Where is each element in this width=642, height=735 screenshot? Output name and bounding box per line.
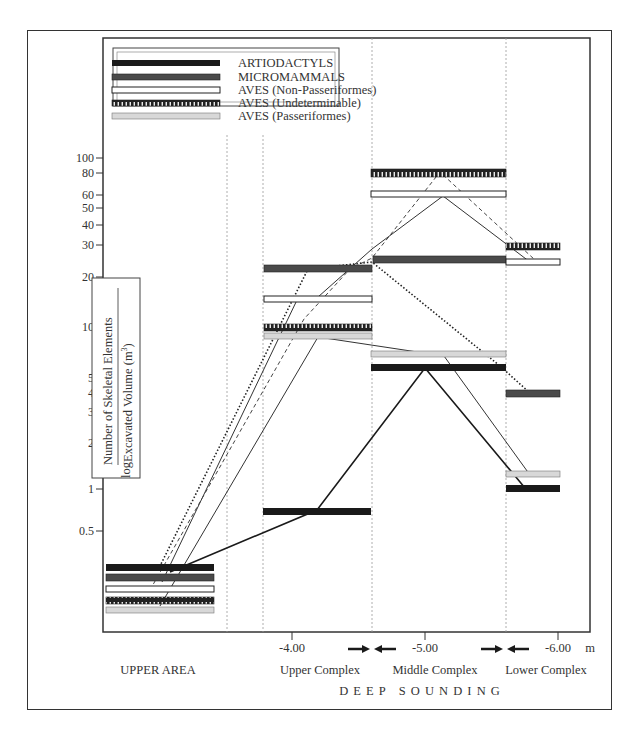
label-deep-sounding: D E E P S O U N D I N G <box>339 684 501 698</box>
series-lines <box>150 172 535 606</box>
svg-text:50: 50 <box>82 201 94 215</box>
legend-swatch-passeriformes <box>112 113 220 119</box>
svg-text:log: log <box>119 461 133 478</box>
svg-text:40: 40 <box>82 218 94 232</box>
legend-swatch-non-passeriformes <box>112 87 220 93</box>
legend-label-undeterminable: AVES (Undeterminable) <box>238 96 361 110</box>
svg-text:100: 100 <box>76 151 94 165</box>
bars-upper-complex <box>263 265 372 515</box>
legend-label-non-passeriformes: AVES (Non-Passeriformes) <box>238 83 376 97</box>
x-tick-6: -6.00 <box>545 641 571 655</box>
x-unit: m <box>585 641 595 655</box>
line-artiodactyls <box>170 368 525 572</box>
y-axis-label: Number of Skeletal Elements Excavated Vo… <box>92 278 140 478</box>
legend: ARTIODACTYLS MICROMAMMALS AVES (Non-Pass… <box>112 48 376 123</box>
legend-swatch-micromammals <box>112 74 220 80</box>
label-upper-complex: Upper Complex <box>280 663 361 677</box>
y-tick-labels: 100 80 60 50 40 30 20 10 5 4 3 2 1 0.5 <box>76 151 94 538</box>
svg-text:30: 30 <box>82 238 94 252</box>
bars-lower-complex <box>506 243 560 492</box>
svg-text:Number of Skeletal Elements: Number of Skeletal Elements <box>101 317 115 465</box>
line-non-passeriformes <box>162 196 530 582</box>
line-passeriformes <box>160 337 530 606</box>
svg-text:60: 60 <box>82 188 94 202</box>
label-middle-complex: Middle Complex <box>392 663 478 677</box>
legend-label-passeriformes: AVES (Passeriformes) <box>238 109 351 123</box>
line-micromammals <box>158 262 530 570</box>
svg-text:80: 80 <box>82 166 94 180</box>
legend-swatch-artiodactyls <box>112 60 220 66</box>
chart: ARTIODACTYLS MICROMAMMALS AVES (Non-Pass… <box>0 0 642 735</box>
x-tick-4: -4.00 <box>279 641 305 655</box>
label-upper-area: UPPER AREA <box>120 663 195 677</box>
svg-text:Excavated Volume (m3): Excavated Volume (m3) <box>120 343 135 462</box>
x-axis-ticks <box>292 632 558 640</box>
svg-text:0.5: 0.5 <box>79 524 94 538</box>
legend-label-micromammals: MICROMAMMALS <box>238 70 345 84</box>
line-undeterminable <box>150 172 535 590</box>
boundary-arrows <box>348 645 529 653</box>
label-lower-complex: Lower Complex <box>505 663 587 677</box>
legend-swatch-undeterminable <box>112 100 220 106</box>
svg-text:1: 1 <box>88 482 94 496</box>
legend-label-artiodactyls: ARTIODACTYLS <box>238 56 333 70</box>
x-tick-5: -5.00 <box>412 641 438 655</box>
